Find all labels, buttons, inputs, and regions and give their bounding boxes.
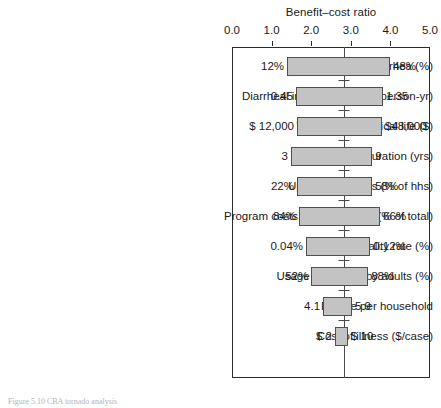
x-tick-label: 4.0: [382, 24, 398, 36]
bar-low-value: $ 12,000: [249, 111, 297, 141]
tornado-bar: [296, 87, 383, 106]
tornado-row: Case fatality rate (%)0.04%0.12%: [0, 231, 441, 261]
bar-high-value: 5.9: [352, 291, 371, 321]
tornado-bar: [291, 147, 372, 166]
bar-low-value: 22%: [271, 171, 297, 201]
x-tick-mark: [272, 41, 273, 46]
tornado-row: People per household4.15.9: [0, 291, 441, 321]
tornado-row: Value of a statistical life ($)$ 12,000$…: [0, 111, 441, 141]
x-tick-label: 1.0: [264, 24, 280, 36]
tornado-row: Usage of latrines by adults (%)52%88%: [0, 261, 441, 291]
bar-high-value: $48,000: [382, 111, 427, 141]
x-tick-mark: [311, 41, 312, 46]
bar-high-value: 66%: [380, 201, 406, 231]
bar-low-value: $ 2: [316, 321, 335, 351]
baseline-tick: [339, 260, 350, 261]
bar-low-value: 84%: [273, 201, 299, 231]
x-tick-mark: [390, 41, 391, 46]
bar-high-value: 1.35: [383, 81, 408, 111]
tornado-row: Program costs per household (% of total)…: [0, 201, 441, 231]
bar-low-value: 0.04%: [270, 231, 306, 261]
tornado-row: Cost of illness ($/case)$ 2$ 10: [0, 321, 441, 351]
bar-low-value: 3: [282, 141, 291, 171]
bar-low-value: 12%: [261, 51, 287, 81]
tornado-bar: [297, 177, 372, 196]
baseline-tick: [339, 80, 350, 81]
baseline-tick: [339, 170, 350, 171]
baseline-tick: [339, 290, 350, 291]
figure-caption: Figure 5.10 CBA tornado analysis: [8, 397, 117, 406]
x-tick-mark: [351, 41, 352, 46]
bar-high-value: $ 10: [348, 321, 373, 351]
bar-high-value: 0.12%: [370, 231, 406, 261]
baseline-tick: [339, 320, 350, 321]
bar-low-value: 52%: [285, 261, 311, 291]
bar-low-value: 0.45: [271, 81, 296, 111]
bar-high-value: 9: [372, 141, 381, 171]
tornado-bar: [335, 327, 348, 346]
baseline-tick: [339, 110, 350, 111]
baseline-tick: [339, 230, 350, 231]
bar-low-value: 4.1: [304, 291, 323, 321]
bar-high-value: 58%: [372, 171, 398, 201]
tornado-bar: [323, 297, 352, 316]
tornado-row: Project duration (yrs)39: [0, 141, 441, 171]
chart-title: Benefit–cost ratio: [232, 6, 430, 18]
baseline-tick: [339, 140, 350, 141]
tornado-bar: [287, 57, 390, 76]
x-tick-label: 2.0: [303, 24, 319, 36]
bar-high-value: 88%: [368, 261, 394, 291]
x-tick-label: 5.0: [422, 24, 438, 36]
tornado-row: Uptake of latrines (% of hhs)22%58%: [0, 171, 441, 201]
x-tick-label: 0.0: [224, 24, 240, 36]
tornado-bar: [311, 267, 368, 286]
tornado-chart: Benefit–cost ratio 0.01.02.03.04.05.0 Re…: [0, 0, 441, 408]
tornado-row: Diarrheal incidence (cases/person-yr)0.4…: [0, 81, 441, 111]
tornado-bar: [306, 237, 370, 256]
baseline-tick: [339, 200, 350, 201]
x-tick-label: 3.0: [343, 24, 359, 36]
bar-high-value: 48%: [390, 51, 416, 81]
tornado-bar: [299, 207, 380, 226]
x-axis-ticks: 0.01.02.03.04.05.0: [0, 24, 441, 40]
tornado-row: Reduction in diarrhea (%)12%48%: [0, 51, 441, 81]
tornado-bar: [297, 117, 382, 136]
